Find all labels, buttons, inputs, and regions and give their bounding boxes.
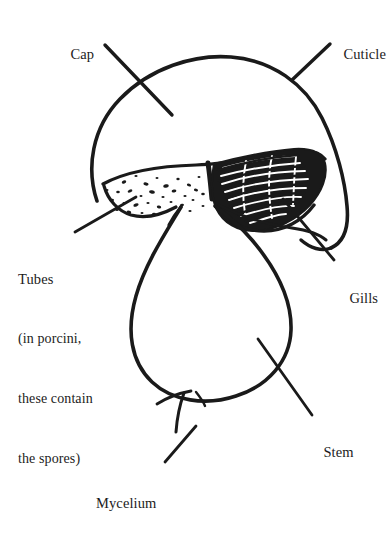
stipple-dot	[133, 203, 139, 208]
stipple-dot	[152, 213, 156, 215]
label-tubes-line4: the spores)	[18, 450, 93, 468]
stipple-dot	[183, 195, 186, 197]
stipple-dot	[170, 201, 173, 203]
stipple-dot	[161, 196, 164, 198]
stipple-dot	[106, 189, 109, 191]
stipple-dot	[143, 182, 149, 186]
stem-bulb-path	[131, 206, 291, 401]
label-stem: Stem	[307, 421, 354, 483]
stipple-dot	[116, 191, 120, 193]
stipple-dot	[201, 193, 205, 195]
label-mycelium: Mycelium (the part that’s hidden undergr…	[96, 452, 221, 555]
stipple-dot	[141, 212, 144, 214]
stipple-dot	[171, 189, 176, 193]
label-tubes-line2: (in porcini,	[18, 330, 93, 348]
label-stem-title: Stem	[323, 444, 353, 460]
mycelium-roots-group	[157, 391, 205, 432]
stipple-dot	[140, 195, 143, 197]
label-cap: Cap	[54, 23, 94, 85]
stipple-dot	[156, 177, 159, 179]
label-cuticle-title: Cuticle	[343, 46, 386, 62]
stipple-dot	[146, 202, 149, 204]
stipple-dot	[194, 188, 199, 192]
label-gills-title: Gills	[349, 290, 378, 306]
stipple-dot	[198, 176, 201, 178]
label-tubes-line3: these contain	[18, 390, 93, 408]
label-tubes: Tubes (in porcini, these contain the spo…	[18, 228, 93, 509]
label-mycelium-title: Mycelium	[96, 494, 221, 513]
label-gills: Gills	[333, 267, 378, 329]
mushroom-diagram: Cap Cuticle Tubes (in porcini, these con…	[0, 0, 387, 555]
stipple-dot	[192, 199, 195, 201]
stipple-dot	[110, 199, 114, 202]
underside-bottom-edge-path	[104, 186, 176, 216]
leader-line-stem	[258, 339, 312, 415]
stipple-dot	[121, 180, 126, 184]
gills-hatching-group	[212, 149, 326, 240]
stipple-dot	[202, 205, 205, 207]
cap-right-undercurl-path	[301, 240, 331, 250]
label-cuticle: Cuticle	[327, 23, 386, 85]
stipple-dot	[157, 205, 162, 209]
stipple-dot	[176, 178, 179, 180]
stipple-dot	[166, 210, 169, 212]
label-tubes-title: Tubes	[18, 270, 93, 289]
label-cap-title: Cap	[70, 46, 94, 62]
leader-line-cuticle	[292, 44, 330, 80]
stipple-dot	[163, 184, 169, 188]
stipple-dot	[134, 175, 137, 177]
leader-line-gills	[283, 199, 334, 260]
stem-bulb-group	[131, 206, 291, 401]
stipple-dot	[188, 210, 191, 212]
stipple-dot	[186, 183, 191, 187]
stipple-dot	[149, 190, 155, 194]
stipple-dot	[127, 189, 133, 194]
